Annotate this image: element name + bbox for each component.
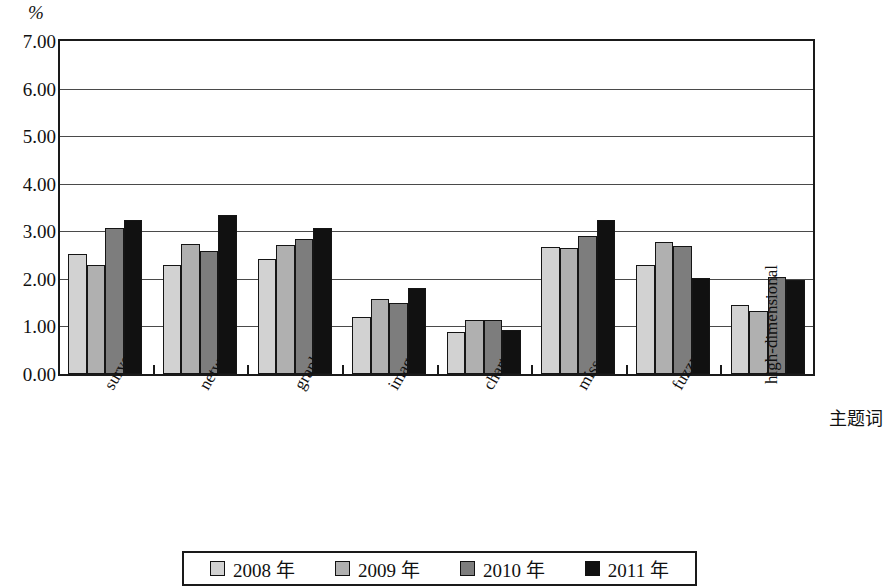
legend-item: 2011 年 bbox=[585, 555, 669, 582]
legend-swatch-icon bbox=[585, 561, 600, 576]
x-axis-title: 主题词 bbox=[829, 404, 883, 430]
legend-item: 2008 年 bbox=[210, 555, 295, 582]
legend-swatch-icon bbox=[460, 561, 475, 576]
legend-item: 2010 年 bbox=[460, 555, 545, 582]
x-axis-category-label: network bbox=[196, 336, 239, 393]
chart-legend: 2008 年2009 年2010 年2011 年 bbox=[182, 551, 697, 586]
legend-label: 2008 年 bbox=[233, 555, 295, 582]
x-axis-category-label: image bbox=[385, 348, 420, 392]
legend-label: 2010 年 bbox=[483, 555, 545, 582]
legend-swatch-icon bbox=[210, 561, 225, 576]
x-axis-category-label: graph bbox=[291, 350, 325, 392]
legend-item: 2009 年 bbox=[335, 555, 420, 582]
x-axis-category-label: high-dimensional bbox=[763, 265, 780, 384]
x-axis-category-label: survey bbox=[101, 345, 138, 393]
legend-label: 2011 年 bbox=[608, 555, 669, 582]
x-axis-category-label: miss bbox=[574, 357, 604, 393]
x-axis-category-label: chart bbox=[480, 355, 512, 393]
x-axis-category-label: fuzzy bbox=[669, 351, 703, 392]
legend-swatch-icon bbox=[335, 561, 350, 576]
legend-label: 2009 年 bbox=[358, 555, 420, 582]
